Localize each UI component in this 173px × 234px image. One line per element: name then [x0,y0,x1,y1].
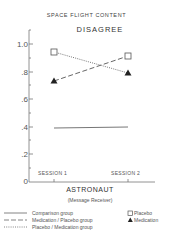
legend-item-placebo-medication: Placebo / Medication group [32,224,93,230]
legend-item-placebo: Placebo [134,210,152,216]
x-axis [29,179,155,182]
y-axis [29,30,33,182]
series-medication-placebo-line [54,56,128,81]
series-placebo-medication-line [54,52,128,73]
legend-item-comparison: Comparison group [32,210,73,216]
x-axis-label: ASTRONAUT [40,186,140,193]
placebo-marker [125,53,131,59]
medication-marker [125,70,132,76]
x-category-label: SESSION 2 [111,170,140,176]
legend-medication-icon [128,218,133,223]
x-axis-sublabel: (Message Receiver) [40,197,140,203]
legend-placebo-icon [128,211,133,216]
legend-item-medication-placebo: Medication / Placebo group [32,217,93,223]
series-comparison-line [54,127,128,128]
legend-item-medication: Medication [134,217,158,223]
placebo-marker [51,49,57,55]
x-category-label: SESSION 1 [38,170,67,176]
